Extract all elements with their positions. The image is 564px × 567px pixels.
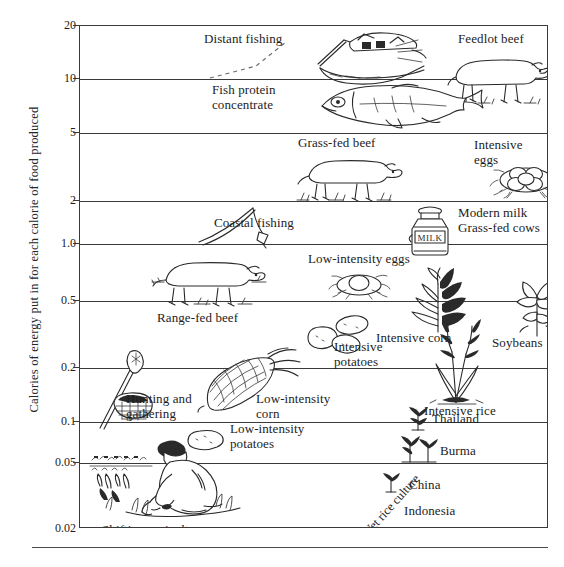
thailand-label: Thailand: [432, 412, 479, 427]
label-hunting-and-gathering: Hunting and gathering: [126, 392, 192, 421]
label-fish-protein-concentrate: Fish protein concentrate: [212, 83, 276, 112]
gridline-5: [80, 133, 547, 134]
figure-bottom-rule: [32, 547, 548, 548]
planting-person-icon: [86, 430, 246, 518]
label-coastal-fishing: Coastal fishing: [214, 216, 294, 231]
label-grass-fed-beef: Grass-fed beef: [298, 136, 376, 151]
label-modern-milk: Modern milk Grass-fed cows: [458, 206, 540, 235]
y-axis-tick-labels: 20 10 5 2 1.0 0.5 0.2 0.1 0.05 0.02: [32, 0, 76, 567]
milk-can-icon: MILK: [402, 201, 458, 257]
egg-nest-icon: [488, 158, 548, 202]
coastal-fishing-label: Coastal fishing: [214, 216, 294, 231]
y-tick-0-02: 0.02: [55, 521, 76, 536]
label-china: China: [409, 478, 441, 493]
label-indonesia: Indonesia: [404, 504, 455, 519]
label-thailand: Thailand: [432, 412, 479, 427]
feedlot-beef-label: Feedlot beef: [458, 32, 524, 47]
label-soybeans: Soybeans: [492, 336, 543, 351]
label-range-fed-beef: Range-fed beef: [157, 311, 238, 326]
grass-fed-beef-label: Grass-fed beef: [298, 136, 376, 151]
label-low-intensity-corn: Low-intensity corn: [256, 392, 330, 421]
soy-plant-icon: [508, 276, 548, 338]
egg-nest-icon: [328, 270, 390, 300]
label-shifting-agriculture: Shifting agriculture: [102, 523, 205, 528]
label-low-intensity-eggs: Low-intensity eggs: [308, 252, 410, 267]
rice-sprig-icon: [406, 402, 430, 432]
cow-icon: [152, 256, 270, 308]
energy-input-per-calorie-chart: Calories of energy put in for each calor…: [0, 0, 564, 567]
rice-plant-icon: [422, 318, 492, 408]
intensive-potatoes-label: Intensive potatoes: [334, 340, 383, 369]
low-intensity-corn-label: Low-intensity corn: [256, 392, 330, 421]
indonesia-label: Indonesia: [404, 504, 455, 519]
china-label: China: [409, 478, 441, 493]
plot-area: Distant fishing Feedlot beef: [79, 25, 548, 528]
label-burma: Burma: [440, 444, 476, 459]
rice-sprig-icon: [380, 468, 402, 494]
shifting-agriculture-label: Shifting agriculture: [102, 523, 205, 528]
label-intensive-potatoes: Intensive potatoes: [334, 340, 383, 369]
label-feedlot-beef: Feedlot beef: [458, 32, 524, 47]
modern-milk-label: Modern milk Grass-fed cows: [458, 206, 540, 235]
fishing-boat-icon: [300, 28, 430, 86]
soybeans-label: Soybeans: [492, 336, 543, 351]
distant-fishing-label: Distant fishing: [204, 32, 282, 47]
burma-label: Burma: [440, 444, 476, 459]
rice-sprig-icon: [398, 430, 440, 464]
milk-can-text: MILK: [418, 233, 443, 243]
hunting-and-gathering-label: Hunting and gathering: [126, 392, 192, 421]
fish-protein-concentrate-label: Fish protein concentrate: [212, 83, 276, 112]
label-distant-fishing: Distant fishing: [204, 32, 282, 47]
cow-icon: [295, 154, 407, 204]
gridline-1: [80, 244, 547, 245]
range-fed-beef-label: Range-fed beef: [157, 311, 238, 326]
low-intensity-eggs-label: Low-intensity eggs: [308, 252, 410, 267]
fish-icon: [314, 82, 489, 132]
